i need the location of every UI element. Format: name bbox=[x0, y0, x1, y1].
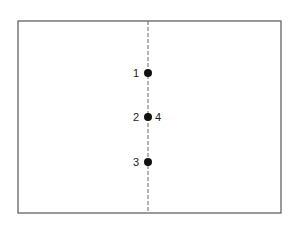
label-2: 2 bbox=[133, 111, 139, 123]
diagram: 1 2 4 3 bbox=[0, 0, 292, 227]
point-2-4 bbox=[144, 113, 152, 121]
label-4: 4 bbox=[155, 111, 161, 123]
point-3 bbox=[144, 158, 152, 166]
label-3: 3 bbox=[133, 156, 139, 168]
point-1 bbox=[144, 69, 152, 77]
label-1: 1 bbox=[133, 67, 139, 79]
